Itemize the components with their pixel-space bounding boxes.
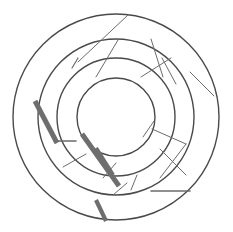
concentric-ring-diagram [0,0,233,232]
figure-background [0,0,233,232]
figure-root [0,0,233,232]
